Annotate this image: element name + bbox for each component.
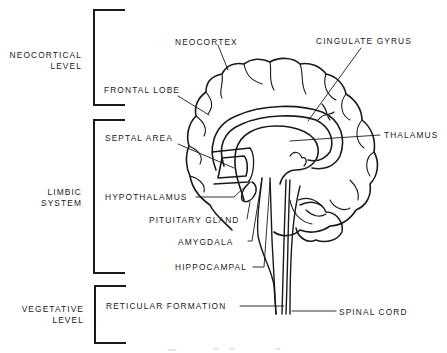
leader-pituitary-gland: [247, 202, 250, 219]
cropped-caption-marks: [168, 349, 280, 350]
leader-cingulate-gyrus: [308, 48, 361, 121]
brain-illustration: [0, 0, 447, 353]
leader-thalamus: [290, 135, 380, 141]
brainstem: [257, 178, 276, 314]
leader-frontal-lobe: [178, 96, 209, 115]
cerebellum: [296, 202, 342, 241]
leader-amygdala: [248, 178, 262, 241]
leader-neocortex: [218, 45, 228, 70]
leader-hippocampal: [253, 182, 270, 267]
